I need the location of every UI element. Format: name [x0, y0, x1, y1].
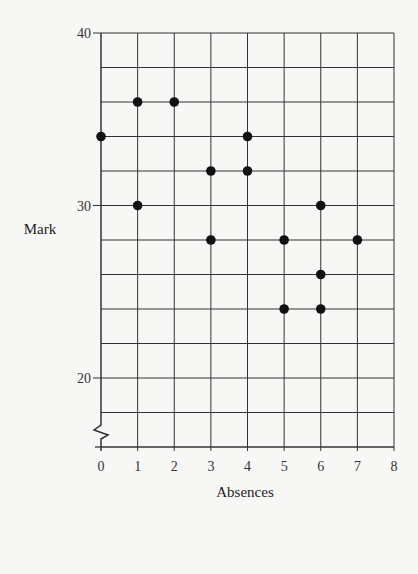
y-tick-label: 40 [77, 26, 91, 41]
x-tick-label: 6 [317, 459, 324, 474]
data-point [133, 97, 143, 107]
x-tick-label: 7 [354, 459, 361, 474]
grid-lines [93, 33, 394, 451]
x-tick-label: 8 [391, 459, 398, 474]
data-point [243, 132, 253, 142]
x-tick-label: 1 [134, 459, 141, 474]
y-tick-labels: 203040 [77, 26, 91, 386]
y-axis-title: Mark [24, 221, 57, 237]
y-tick-label: 30 [77, 199, 91, 214]
data-point [279, 304, 289, 314]
x-axis-title: Absences [216, 484, 274, 500]
data-point [169, 97, 179, 107]
y-axis-break [94, 33, 108, 451]
x-tick-label: 4 [244, 459, 251, 474]
x-tick-label: 5 [281, 459, 288, 474]
x-tick-label: 0 [98, 459, 105, 474]
data-point [353, 235, 363, 245]
data-point [316, 201, 326, 211]
data-point [316, 270, 326, 280]
scatter-chart: 012345678 203040 Absences Mark [0, 0, 418, 574]
data-point [316, 304, 326, 314]
data-point [243, 166, 253, 176]
data-point [133, 201, 143, 211]
data-point [96, 132, 106, 142]
x-tick-label: 2 [171, 459, 178, 474]
data-point [279, 235, 289, 245]
axes [94, 33, 108, 451]
data-point [206, 235, 216, 245]
x-tick-labels: 012345678 [98, 459, 398, 474]
x-tick-label: 3 [207, 459, 214, 474]
y-tick-label: 20 [77, 371, 91, 386]
data-point [206, 166, 216, 176]
